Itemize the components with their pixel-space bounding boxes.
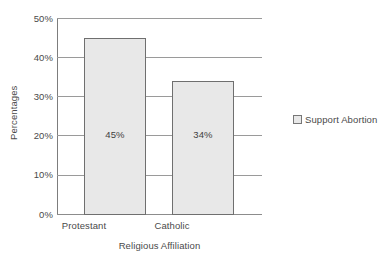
bar-chart-figure: 50% 40% 30% 20% 10% 0% 45% 34% Protestan… <box>0 0 390 256</box>
bar-protestant[interactable] <box>84 38 146 215</box>
x-axis-title: Religious Affiliation <box>57 241 262 251</box>
legend-label-support-abortion: Support Abortion <box>305 115 377 125</box>
y-tick-label-0: 0% <box>13 210 53 220</box>
bar-value-catholic: 34% <box>172 130 234 140</box>
x-tick-label-catholic: Catholic <box>122 221 222 231</box>
legend-swatch-support-abortion <box>293 115 302 124</box>
plot-area: 45% 34% <box>57 18 262 214</box>
bar-value-protestant: 45% <box>84 130 146 140</box>
chart-legend: Support Abortion <box>293 115 377 125</box>
y-tick-label-40: 40% <box>13 53 53 63</box>
x-tick-label-protestant: Protestant <box>34 221 134 231</box>
bar-catholic[interactable] <box>172 81 234 215</box>
y-tick-label-10: 10% <box>13 170 53 180</box>
gridline-50 <box>57 18 262 19</box>
y-axis-title: Percentages <box>9 63 19 163</box>
y-tick-label-50: 50% <box>13 14 53 24</box>
